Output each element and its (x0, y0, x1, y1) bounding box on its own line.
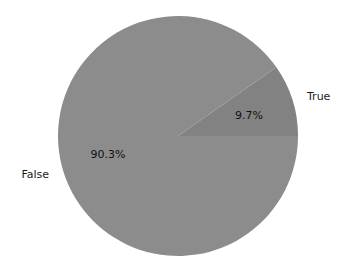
slice-label-false: False (21, 168, 49, 181)
pie-chart: 9.7% 90.3% True False (0, 0, 352, 269)
slice-percent-true: 9.7% (235, 109, 263, 122)
pie-wedges (58, 16, 298, 256)
slice-label-true: True (306, 90, 331, 103)
slice-percent-false: 90.3% (91, 148, 126, 161)
